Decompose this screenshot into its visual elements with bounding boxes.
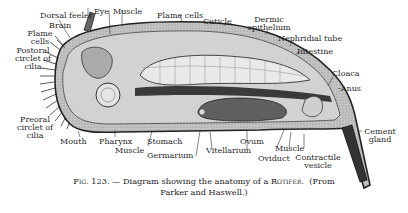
label-preoral-line3: cilia bbox=[27, 131, 44, 140]
label-cloaca: Cloaca bbox=[332, 70, 360, 78]
figure-caption-line2: Parker and Haswell.) bbox=[0, 187, 408, 197]
label-preoral-circlet: Preoral circlet of cilia bbox=[16, 116, 54, 140]
label-germarium: Germarium bbox=[147, 152, 193, 160]
pharynx bbox=[96, 83, 120, 107]
label-eye: Eye bbox=[94, 8, 109, 16]
label-cement-line2: gland bbox=[369, 135, 392, 144]
label-mouth: Mouth bbox=[60, 138, 87, 146]
label-cement-gland: Cement gland bbox=[362, 128, 398, 144]
germarium bbox=[199, 109, 205, 115]
label-muscle-bottom: Muscle bbox=[115, 147, 144, 155]
label-postoral-line3: cilia bbox=[25, 62, 42, 71]
caption-text: — Diagram showing the anatomy of a bbox=[112, 176, 268, 186]
label-pharynx: Pharynx bbox=[99, 138, 132, 146]
label-dermic-line2: epithelium bbox=[247, 23, 290, 32]
label-muscle-right: Muscle bbox=[275, 145, 304, 153]
label-postoral-circlet: Postoral circlet of cilia bbox=[14, 47, 52, 71]
label-cuticle: Cuticle bbox=[203, 18, 232, 26]
label-ovum: Ovum bbox=[240, 138, 264, 146]
label-muscle-top: Muscle bbox=[113, 8, 142, 16]
label-contractile-vesicle: Contractile vesicle bbox=[293, 154, 343, 170]
figure-number: Fig. 123. bbox=[73, 176, 109, 186]
vitellarium bbox=[198, 98, 287, 121]
label-stomach: Stomach bbox=[147, 138, 183, 146]
label-nephridial-tube: Nephridial tube bbox=[278, 35, 342, 43]
label-vitellarium: Vitellarium bbox=[206, 147, 251, 155]
label-flame-line2: cells bbox=[31, 37, 49, 46]
label-contractile-line2: vesicle bbox=[304, 161, 332, 170]
caption-source-open: (From bbox=[309, 176, 334, 186]
label-dermic-epithelium: Dermic epithelium bbox=[244, 16, 294, 32]
label-flame-cells-top: Flame cells bbox=[157, 12, 203, 20]
label-flame-cells: Flame cells bbox=[26, 30, 54, 46]
label-anus: -Anus bbox=[338, 85, 361, 93]
label-oviduct: Oviduct bbox=[258, 155, 290, 163]
caption-subject: Rotifer. bbox=[271, 176, 304, 186]
figure-caption-line1: Fig. 123. — Diagram showing the anatomy … bbox=[0, 176, 408, 186]
label-dorsal-feeler: Dorsal feeler bbox=[40, 12, 93, 20]
label-intestine: Intestine bbox=[297, 48, 333, 56]
